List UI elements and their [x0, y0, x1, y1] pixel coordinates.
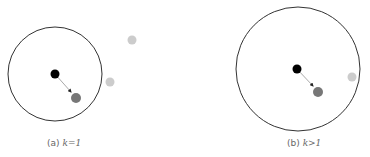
panel-b — [236, 7, 360, 131]
center-point — [51, 70, 60, 79]
outside-point — [106, 78, 115, 87]
outside-point — [128, 36, 137, 45]
outside-point — [348, 73, 357, 82]
caption-a-math: k=1 — [62, 138, 81, 148]
caption-a: (a) k=1 — [47, 138, 81, 148]
moved-point — [71, 93, 81, 103]
center-point — [293, 65, 302, 74]
panel-a — [8, 27, 137, 121]
caption-b-math: k>1 — [303, 138, 322, 148]
caption-a-prefix: (a) — [47, 138, 60, 148]
diagram-canvas — [0, 0, 370, 157]
caption-b-prefix: (b) — [287, 138, 300, 148]
moved-point — [313, 87, 323, 97]
caption-b: (b) k>1 — [287, 138, 321, 148]
